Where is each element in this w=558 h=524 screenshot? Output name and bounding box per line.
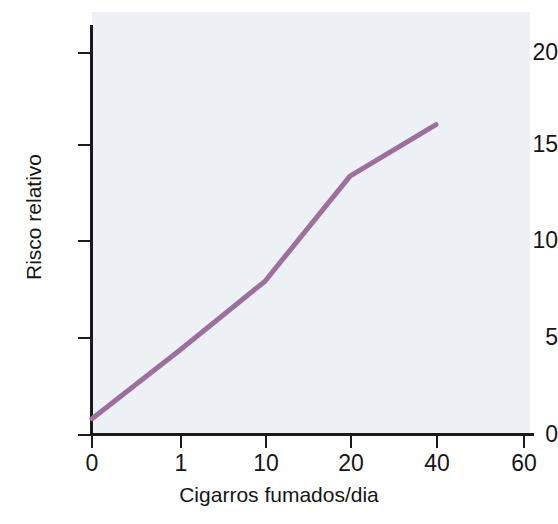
x-axis-line — [90, 433, 534, 436]
y-tick-label-20: 20 — [486, 41, 558, 64]
y-tick-label-15: 15 — [486, 133, 558, 156]
x-tick-mark-40 — [436, 435, 438, 448]
y-axis-line — [90, 25, 93, 436]
y-tick-label-0: 0 — [486, 423, 558, 446]
plot-area-background — [92, 12, 530, 434]
x-tick-label-1: 1 — [146, 452, 216, 475]
x-axis-title: Cigarros fumados/dia — [0, 483, 558, 507]
chart-figure: 20 15 10 5 0 0 1 10 20 40 60 Cigarros fu… — [0, 0, 558, 524]
x-tick-label-20: 20 — [316, 452, 386, 475]
y-tick-mark-15 — [78, 144, 91, 146]
y-tick-mark-0 — [78, 434, 91, 436]
x-tick-mark-0 — [91, 435, 93, 448]
y-axis-title: Risco relativo — [22, 97, 46, 337]
x-tick-label-40: 40 — [402, 452, 472, 475]
y-tick-mark-20 — [78, 52, 91, 54]
y-tick-label-5: 5 — [486, 326, 558, 349]
x-tick-mark-1 — [180, 435, 182, 448]
x-tick-mark-10 — [265, 435, 267, 448]
y-tick-mark-10 — [78, 240, 91, 242]
x-tick-mark-20 — [350, 435, 352, 448]
y-tick-mark-5 — [78, 337, 91, 339]
x-tick-mark-60 — [523, 435, 525, 448]
y-tick-label-10: 10 — [486, 229, 558, 252]
x-tick-label-0: 0 — [57, 452, 127, 475]
x-tick-label-10: 10 — [231, 452, 301, 475]
x-tick-label-60: 60 — [489, 452, 558, 475]
